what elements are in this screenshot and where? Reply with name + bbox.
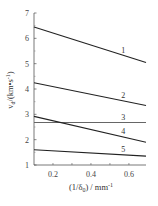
x-axis-label: (1/δ0) / mm-1 (69, 182, 113, 193)
y-tick-label: 7 (25, 9, 29, 18)
series-line-5 (34, 150, 146, 156)
x-tick-label: 0.4 (86, 170, 96, 179)
line-chart: 12345670.20.40.6 12345 vd/(km•s-1) (1/δ0… (0, 0, 158, 206)
y-tick-label: 1 (25, 161, 29, 170)
y-tick-label: 4 (25, 85, 29, 94)
y-tick-label: 2 (25, 136, 29, 145)
y-tick-label: 3 (25, 110, 29, 119)
series-line-1 (34, 27, 146, 62)
series-label-4: 4 (121, 127, 125, 136)
svg-text:vd/(km•s-1): vd/(km•s-1) (5, 71, 16, 109)
y-tick-label: 5 (25, 60, 29, 69)
series-label-1: 1 (121, 46, 125, 55)
series-label-3: 3 (121, 113, 125, 122)
series-label-2: 2 (121, 91, 125, 100)
series-line-2 (34, 83, 146, 106)
x-tick-label: 0.6 (124, 170, 134, 179)
x-tick-label: 0.2 (48, 170, 58, 179)
series-lines: 12345 (34, 27, 146, 156)
series-label-5: 5 (121, 145, 125, 154)
y-axis-label: vd/(km•s-1) (5, 71, 16, 109)
series-line-4 (34, 116, 146, 142)
axes: 12345670.20.40.6 (25, 9, 146, 179)
svg-text:(1/δ0) / mm-1: (1/δ0) / mm-1 (69, 182, 113, 193)
y-tick-label: 6 (25, 34, 29, 43)
